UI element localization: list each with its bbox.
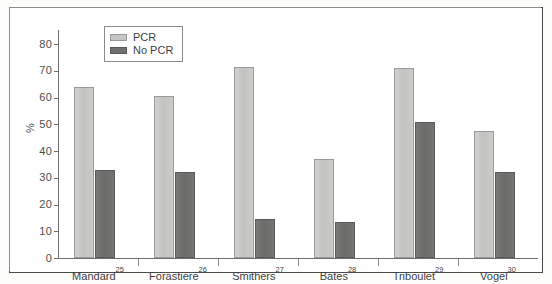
bar-pcr [74,87,94,258]
x-axis-separator [138,259,139,266]
y-tick-label: 60 [0,92,52,103]
bar-pcr [234,67,254,258]
legend-swatch-nopcr [110,47,127,54]
legend-item: PCR [110,31,173,44]
bar-group [458,22,538,258]
legend-label: No PCR [133,45,173,56]
x-label-reference: 25 [116,265,124,274]
y-tick-label: 80 [0,39,52,50]
x-label-reference: 28 [348,265,356,274]
bar-pcr [394,68,414,258]
x-label-reference: 29 [435,265,443,274]
x-axis-label: Vogel30 [458,268,538,282]
bar-pcr [474,131,494,258]
x-label-reference: 30 [508,265,516,274]
x-axis-label: Mandard25 [58,268,138,282]
bar-no-pcr [255,219,275,258]
legend-label: PCR [133,32,156,43]
y-tick-label: 30 [0,172,52,183]
bar-no-pcr [495,172,515,258]
legend-item: No PCR [110,44,173,57]
y-tick-label: 20 [0,199,52,210]
x-label-reference: 26 [199,265,207,274]
bar-group [298,22,378,258]
y-tick-label: 0 [0,253,52,264]
x-axis-separator [298,259,299,266]
figure-frame: % 01020304050607080 Mandard25Forastiere2… [9,7,543,273]
bar-group [378,22,458,258]
x-axis-label: Forastiere26 [138,268,218,282]
bar-no-pcr [95,170,115,258]
bar-pcr [314,159,334,258]
bar-no-pcr [335,222,355,258]
chart-legend: PCRNo PCR [104,26,183,62]
bar-pcr [154,96,174,258]
x-axis-label: Triboulet29 [378,268,458,282]
legend-swatch-pcr [110,34,127,41]
x-label-reference: 27 [276,265,284,274]
figure-container: % 01020304050607080 Mandard25Forastiere2… [0,0,552,284]
y-tick-label: 10 [0,226,52,237]
bar-no-pcr [175,172,195,258]
x-axis-label: Smithers27 [218,268,298,282]
y-tick-label: 40 [0,146,52,157]
bar-no-pcr [415,122,435,258]
x-axis-label: Bates28 [298,268,378,282]
x-axis-separator [458,259,459,266]
y-tick-label: 50 [0,119,52,130]
y-tick-label: 70 [0,65,52,76]
x-axis-separator [378,259,379,266]
bar-group [218,22,298,258]
x-axis-separator [218,259,219,266]
